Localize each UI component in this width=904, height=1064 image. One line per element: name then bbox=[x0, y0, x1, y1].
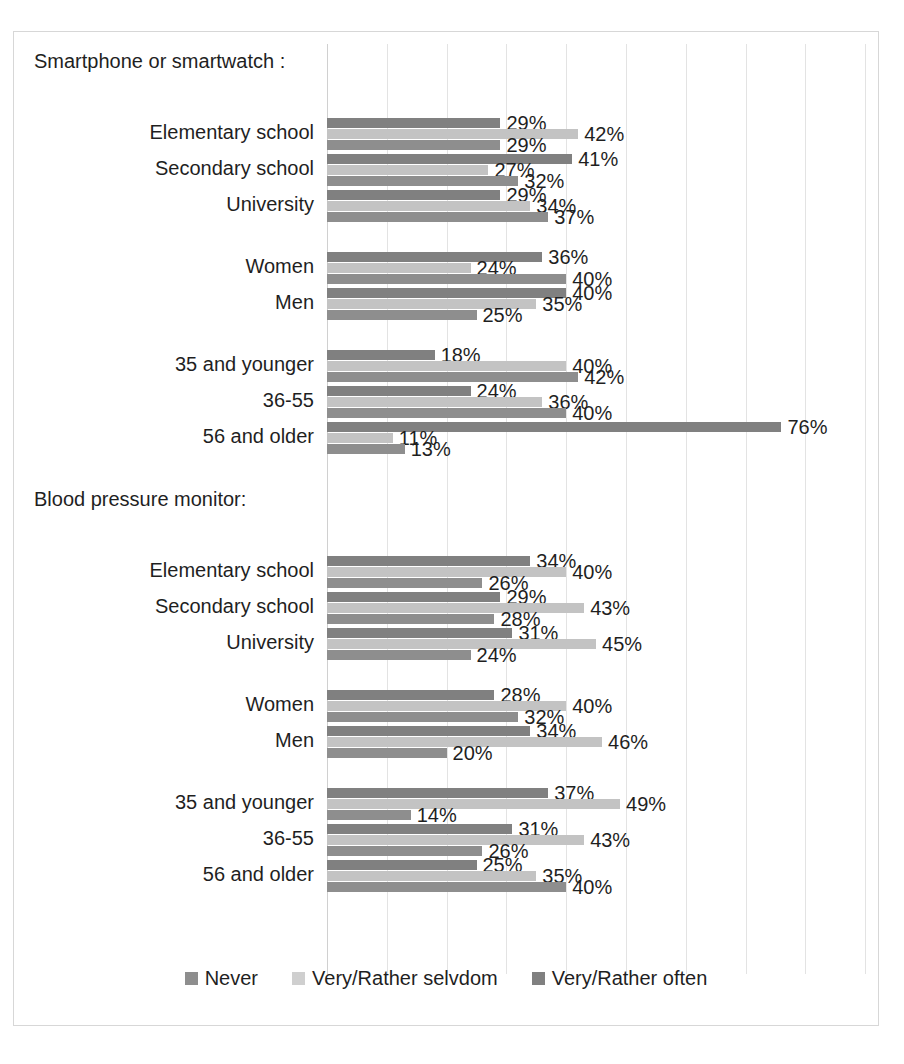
bar-never bbox=[327, 176, 518, 186]
bar-seldom bbox=[327, 603, 584, 613]
bar-group: 34%40%26% bbox=[327, 556, 867, 592]
data-label: 35% bbox=[542, 294, 582, 314]
bar-group: 34%46%20% bbox=[327, 726, 867, 762]
bar-often bbox=[327, 288, 566, 298]
bar-often bbox=[327, 860, 477, 870]
legend-label: Very/Rather often bbox=[552, 967, 708, 989]
legend-item[interactable]: Never bbox=[185, 967, 258, 989]
bar-never bbox=[327, 712, 518, 722]
bar-never bbox=[327, 212, 548, 222]
bar-never bbox=[327, 372, 578, 382]
category-label: Men bbox=[275, 729, 314, 751]
bar-never bbox=[327, 274, 566, 284]
category-label: 56 and older bbox=[203, 425, 314, 447]
chart-legend: NeverVery/Rather selvdomVery/Rather ofte… bbox=[14, 967, 878, 989]
bar-often bbox=[327, 726, 530, 736]
category-label: Women bbox=[245, 255, 314, 277]
bar-seldom bbox=[327, 165, 488, 175]
bar-seldom bbox=[327, 799, 620, 809]
category-label: Secondary school bbox=[155, 157, 314, 179]
category-label: University bbox=[226, 193, 314, 215]
bar-often bbox=[327, 592, 500, 602]
data-label: 25% bbox=[483, 305, 523, 325]
bar-seldom bbox=[327, 397, 542, 407]
bar-seldom bbox=[327, 871, 536, 881]
legend-swatch-icon bbox=[532, 972, 545, 985]
data-label: 46% bbox=[608, 732, 648, 752]
bar-never bbox=[327, 578, 482, 588]
bar-never bbox=[327, 310, 477, 320]
data-label: 49% bbox=[626, 794, 666, 814]
bar-often bbox=[327, 118, 500, 128]
legend-swatch-icon bbox=[292, 972, 305, 985]
bar-never bbox=[327, 810, 411, 820]
category-label: Elementary school bbox=[149, 121, 314, 143]
bar-group: 24%36%40% bbox=[327, 386, 867, 422]
category-label: Women bbox=[245, 693, 314, 715]
bar-often bbox=[327, 190, 500, 200]
bar-seldom bbox=[327, 201, 530, 211]
bar-often bbox=[327, 386, 471, 396]
bar-group: 29%34%37% bbox=[327, 190, 867, 226]
legend-label: Never bbox=[205, 967, 258, 989]
bar-seldom bbox=[327, 567, 566, 577]
bar-never bbox=[327, 748, 447, 758]
category-label: 56 and older bbox=[203, 863, 314, 885]
category-label: Secondary school bbox=[155, 595, 314, 617]
data-label: 40% bbox=[572, 696, 612, 716]
bar-often bbox=[327, 788, 548, 798]
data-label: 40% bbox=[572, 403, 612, 423]
legend-item[interactable]: Very/Rather selvdom bbox=[292, 967, 498, 989]
bar-group: 29%43%28% bbox=[327, 592, 867, 628]
category-label: 36-55 bbox=[263, 389, 314, 411]
plot-area: 29%42%29%41%27%32%29%34%37%36%24%40%40%3… bbox=[327, 44, 867, 974]
section-header: Blood pressure monitor: bbox=[34, 488, 246, 510]
bar-often bbox=[327, 824, 512, 834]
bar-never bbox=[327, 650, 471, 660]
bar-often bbox=[327, 350, 435, 360]
bar-never bbox=[327, 614, 494, 624]
data-label: 43% bbox=[590, 830, 630, 850]
data-label: 40% bbox=[572, 562, 612, 582]
data-label: 42% bbox=[584, 367, 624, 387]
bar-seldom bbox=[327, 835, 584, 845]
bar-seldom bbox=[327, 433, 393, 443]
category-label: 35 and younger bbox=[175, 791, 314, 813]
bar-group: 18%40%42% bbox=[327, 350, 867, 386]
category-label: Elementary school bbox=[149, 559, 314, 581]
legend-item[interactable]: Very/Rather often bbox=[532, 967, 708, 989]
section-header: Smartphone or smartwatch : bbox=[34, 50, 285, 72]
data-label: 20% bbox=[453, 743, 493, 763]
bar-often bbox=[327, 690, 494, 700]
bar-group: 28%40%32% bbox=[327, 690, 867, 726]
bar-never bbox=[327, 882, 566, 892]
data-label: 14% bbox=[417, 805, 457, 825]
data-label: 36% bbox=[548, 247, 588, 267]
bar-group: 31%43%26% bbox=[327, 824, 867, 860]
bar-never bbox=[327, 846, 482, 856]
bar-often bbox=[327, 556, 530, 566]
bar-often bbox=[327, 422, 781, 432]
data-label: 29% bbox=[506, 135, 546, 155]
category-label: 35 and younger bbox=[175, 353, 314, 375]
bar-often bbox=[327, 154, 572, 164]
bar-seldom bbox=[327, 361, 566, 371]
data-label: 24% bbox=[477, 645, 517, 665]
bar-group: 25%35%40% bbox=[327, 860, 867, 896]
bar-seldom bbox=[327, 263, 471, 273]
bar-group: 76%11%13% bbox=[327, 422, 867, 458]
data-label: 40% bbox=[572, 877, 612, 897]
bar-seldom bbox=[327, 639, 596, 649]
data-label: 37% bbox=[554, 207, 594, 227]
bar-never bbox=[327, 408, 566, 418]
data-label: 43% bbox=[590, 598, 630, 618]
bar-never bbox=[327, 444, 405, 454]
bar-group: 40%35%25% bbox=[327, 288, 867, 324]
legend-swatch-icon bbox=[185, 972, 198, 985]
data-label: 41% bbox=[578, 149, 618, 169]
bar-never bbox=[327, 140, 500, 150]
bar-often bbox=[327, 628, 512, 638]
bar-group: 37%49%14% bbox=[327, 788, 867, 824]
legend-label: Very/Rather selvdom bbox=[312, 967, 498, 989]
chart-screenshot: Elementary schoolSecondary schoolUnivers… bbox=[0, 0, 904, 1064]
